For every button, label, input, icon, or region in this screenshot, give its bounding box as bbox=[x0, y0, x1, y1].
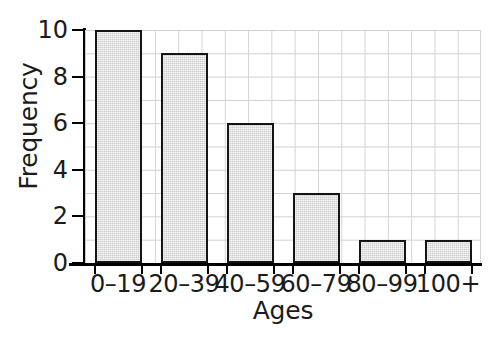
x-axis-line bbox=[69, 263, 482, 266]
x-axis-title: Ages bbox=[85, 296, 481, 325]
grid-lines bbox=[85, 30, 481, 263]
x-axis-category-label: 100+ bbox=[412, 272, 484, 296]
plot-area bbox=[85, 30, 481, 263]
y-axis-tick-label: 0 bbox=[36, 251, 68, 275]
x-axis-category-label: 80–99 bbox=[346, 272, 418, 296]
x-axis-category-label: 0–19 bbox=[82, 272, 154, 296]
bar bbox=[359, 240, 406, 263]
y-axis-tick bbox=[72, 29, 83, 31]
y-axis-tick bbox=[72, 215, 83, 217]
histogram-figure: Frequency 0246810 0–1920–3940–5960–7980–… bbox=[0, 0, 498, 350]
y-axis-tick bbox=[72, 76, 83, 78]
x-axis-category-label: 20–39 bbox=[148, 272, 220, 296]
bar bbox=[161, 53, 208, 263]
y-axis-tick-label: 6 bbox=[36, 111, 68, 135]
grid-right-line bbox=[480, 30, 481, 263]
bar bbox=[227, 123, 274, 263]
x-axis-category-label: 60–79 bbox=[280, 272, 352, 296]
bar bbox=[95, 30, 142, 263]
y-axis-tick-label: 10 bbox=[36, 18, 68, 42]
y-axis-tick bbox=[72, 122, 83, 124]
y-axis-tick-label: 8 bbox=[36, 65, 68, 89]
grid-top-line bbox=[85, 30, 481, 31]
y-axis-tick-label: 2 bbox=[36, 204, 68, 228]
y-axis-tick bbox=[72, 169, 83, 171]
bar bbox=[425, 240, 472, 263]
y-axis-tick bbox=[72, 262, 83, 264]
y-axis-tick-label: 4 bbox=[36, 158, 68, 182]
x-axis-category-label: 40–59 bbox=[214, 272, 286, 296]
bar bbox=[293, 193, 340, 263]
